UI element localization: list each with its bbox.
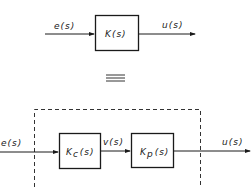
equivalence-icon <box>106 75 125 81</box>
block-kc-label: Kc(s) <box>66 147 95 159</box>
bottom-diagram: e(s) Kc(s) v(s) Kp(s) u(s) <box>0 110 250 188</box>
intermediate-label: v(s) <box>103 137 124 147</box>
output-label-top: u(s) <box>162 20 183 30</box>
block-k-label: K(s) <box>105 29 127 39</box>
top-diagram: e(s) K(s) u(s) <box>45 16 195 51</box>
output-label-bottom: u(s) <box>222 137 243 147</box>
input-label-bottom: e(s) <box>1 138 22 148</box>
input-label-top: e(s) <box>54 21 75 31</box>
block-diagram: e(s) K(s) u(s) e(s) Kc(s) v(s) Kp(s) u(s… <box>0 0 251 187</box>
block-kp-label: Kp(s) <box>140 147 169 159</box>
